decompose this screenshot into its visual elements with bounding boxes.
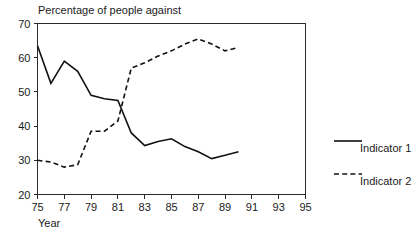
y-tick-label: 30 bbox=[18, 154, 30, 166]
x-tick-label: 77 bbox=[58, 201, 70, 213]
x-tick-label: 91 bbox=[246, 201, 258, 213]
y-tick-label: 20 bbox=[18, 189, 30, 201]
legend-item-indicator-1: Indicator 1 bbox=[360, 142, 411, 154]
x-tick-label: 95 bbox=[299, 201, 311, 213]
series-line-2 bbox=[38, 39, 239, 167]
x-tick-label: 81 bbox=[112, 201, 124, 213]
x-tick-label: 87 bbox=[192, 201, 204, 213]
x-tick-label: 89 bbox=[219, 201, 231, 213]
chart-plot-area: 203040506070 7577798183858789919395 bbox=[0, 0, 413, 238]
x-tick-label: 85 bbox=[165, 201, 177, 213]
y-axis-ticks: 203040506070 bbox=[18, 18, 37, 201]
y-tick-label: 70 bbox=[18, 18, 30, 30]
series-line-1 bbox=[38, 46, 239, 159]
y-tick-label: 60 bbox=[18, 52, 30, 64]
x-tick-label: 75 bbox=[31, 201, 43, 213]
x-axis-ticks: 7577798183858789919395 bbox=[31, 195, 311, 213]
legend-item-indicator-2: Indicator 2 bbox=[360, 175, 411, 187]
y-tick-label: 40 bbox=[18, 120, 30, 132]
x-tick-label: 93 bbox=[273, 201, 285, 213]
legend-swatches bbox=[334, 141, 362, 174]
chart-figure: Percentage of people against 20304050607… bbox=[0, 0, 413, 238]
x-tick-label: 79 bbox=[85, 201, 97, 213]
series-lines bbox=[38, 39, 239, 167]
x-tick-label: 83 bbox=[139, 201, 151, 213]
x-axis-title: Year bbox=[38, 217, 60, 229]
y-tick-label: 50 bbox=[18, 86, 30, 98]
